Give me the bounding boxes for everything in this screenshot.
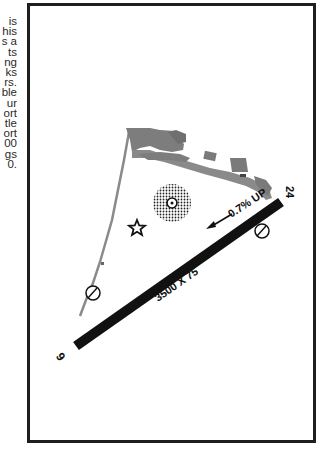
circle-marker-icon: [255, 224, 269, 238]
runway-end-label-6: 6: [53, 350, 68, 364]
circle-marker-icon: [86, 286, 100, 300]
gradient-arrow-icon: [206, 214, 232, 229]
runway-end-label-24: 24: [284, 186, 296, 199]
segmented-circle-icon: [153, 184, 191, 222]
runway: [76, 202, 281, 346]
apron-area: [126, 128, 272, 200]
airport-diagram: 6 24 3500 X 75 0.7% UP: [0, 0, 320, 453]
star-icon: [129, 220, 145, 235]
